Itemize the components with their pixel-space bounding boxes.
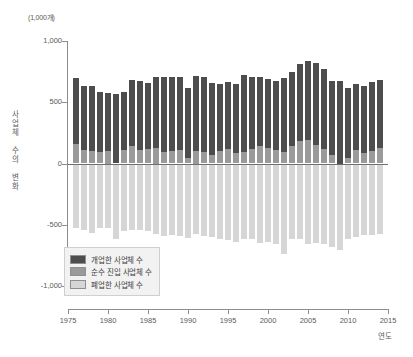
x-tick-label: 2010 xyxy=(340,316,357,325)
y-tick-label: 1,000 xyxy=(30,36,62,45)
x-tick-mark xyxy=(308,309,309,314)
y-tick-label-wrap: 0 xyxy=(22,159,62,160)
y-axis-title-char: 화 xyxy=(8,182,22,191)
bar-segment-net-entry xyxy=(273,150,279,163)
bar-segment-deaths xyxy=(193,164,199,234)
x-tick-mark xyxy=(108,309,109,314)
bar-segment-births xyxy=(89,86,95,150)
bar-segment-births xyxy=(121,92,127,150)
legend-label: 순수 진입 사업체 수 xyxy=(91,266,152,277)
bar-segment-deaths xyxy=(185,164,191,238)
bar-segment-births xyxy=(193,76,199,151)
y-axis-title-char xyxy=(8,164,22,173)
bar-segment-net-entry xyxy=(281,152,287,164)
bar-segment-births xyxy=(145,83,151,150)
bar-segment-deaths xyxy=(89,164,95,233)
y-tick-label: -1,000 xyxy=(30,281,62,290)
x-tick-label: 1990 xyxy=(180,316,197,325)
bar-segment-births xyxy=(177,77,183,150)
bar-segment-deaths xyxy=(369,164,375,236)
y-tick-label: 0 xyxy=(30,159,62,168)
bar-segment-births xyxy=(217,84,223,150)
bar-segment-net-entry xyxy=(377,148,383,164)
bar-segment-net-entry xyxy=(193,151,199,163)
x-tick-label: 1985 xyxy=(140,316,157,325)
bar-segment-net-entry xyxy=(169,151,175,164)
y-tick-label-wrap: -1,000 xyxy=(22,281,62,282)
bar-segment-deaths xyxy=(273,164,279,244)
bar-segment-births xyxy=(249,77,255,149)
bar-segment-net-entry xyxy=(97,152,103,164)
bar-segment-births xyxy=(321,69,327,149)
bar-segment-births xyxy=(329,81,335,155)
bar-segment-births xyxy=(361,86,367,153)
y-axis-title-char: 사 xyxy=(8,110,22,119)
bar-segment-deaths xyxy=(353,164,359,238)
bar-segment-births xyxy=(345,88,351,158)
bar-segment-births xyxy=(137,81,143,150)
y-axis-title-char: 업 xyxy=(8,119,22,128)
bar-segment-deaths xyxy=(321,164,327,244)
bar-segment-deaths xyxy=(337,164,343,250)
x-axis-title: 연도 xyxy=(378,330,392,341)
bar-segment-net-entry xyxy=(249,149,255,163)
chart-figure: (1,000개) 사업체 수의 변화 연도 1,0005000-500-1,00… xyxy=(0,0,413,357)
x-tick-mark xyxy=(268,309,269,314)
bar-segment-births xyxy=(281,78,287,152)
bar-segment-net-entry xyxy=(225,149,231,164)
legend-item: 순수 진입 사업체 수 xyxy=(70,266,152,277)
bar-segment-deaths xyxy=(105,164,111,229)
bar-segment-deaths xyxy=(137,164,143,231)
bar-segment-net-entry xyxy=(137,150,143,163)
legend-swatch-icon xyxy=(70,267,86,276)
bar-segment-births xyxy=(73,78,79,144)
bar-segment-deaths xyxy=(329,164,335,247)
y-axis-title-char: 체 xyxy=(8,128,22,137)
bar-segment-deaths xyxy=(177,164,183,237)
bar-segment-deaths xyxy=(209,164,215,238)
bar-segment-net-entry xyxy=(209,155,215,164)
chart-legend: 개업한 사업체 수순수 진입 사업체 수폐업한 사업체 수 xyxy=(64,247,160,296)
x-tick-mark xyxy=(348,309,349,314)
x-tick-label: 1975 xyxy=(60,316,77,325)
bar-segment-deaths xyxy=(345,164,351,239)
zero-baseline xyxy=(68,164,388,165)
bar-segment-births xyxy=(185,88,191,158)
bar-segment-deaths xyxy=(361,164,367,235)
y-tick-label-wrap: 500 xyxy=(22,97,62,98)
bar-segment-deaths xyxy=(201,164,207,237)
bar-segment-deaths xyxy=(265,164,271,242)
x-tick-label: 2005 xyxy=(300,316,317,325)
legend-swatch-icon xyxy=(70,280,86,289)
bar-segment-net-entry xyxy=(361,153,367,163)
bar-segment-births xyxy=(209,83,215,155)
bar-segment-deaths xyxy=(145,164,151,232)
bar-segment-net-entry xyxy=(329,155,335,164)
bar-segment-deaths xyxy=(289,164,295,240)
x-tick-mark xyxy=(228,309,229,314)
bar-segment-net-entry xyxy=(369,151,375,164)
y-axis-title-char xyxy=(8,137,22,146)
bar-segment-births xyxy=(81,86,87,150)
y-axis-title: 사업체 수의 변화 xyxy=(8,110,22,191)
bar-segment-net-entry xyxy=(153,148,159,163)
bar-segment-deaths xyxy=(73,164,79,229)
bar-segment-births xyxy=(113,94,119,163)
bar-segment-deaths xyxy=(377,164,383,234)
bar-segment-births xyxy=(257,77,263,146)
x-tick-mark xyxy=(68,309,69,314)
bar-segment-deaths xyxy=(281,164,287,254)
bar-segment-net-entry xyxy=(321,149,327,164)
bar-segment-births xyxy=(353,84,359,150)
bar-segment-deaths xyxy=(241,164,247,239)
bar-segment-deaths xyxy=(97,164,103,228)
legend-label: 폐업한 사업체 수 xyxy=(91,279,143,290)
legend-item: 폐업한 사업체 수 xyxy=(70,279,152,290)
x-tick-mark xyxy=(188,309,189,314)
bar-segment-births xyxy=(161,77,167,152)
bar-segment-births xyxy=(337,81,343,164)
bar-segment-net-entry xyxy=(257,146,263,163)
x-tick-label: 2000 xyxy=(260,316,277,325)
bar-segment-net-entry xyxy=(241,152,247,164)
x-tick-mark xyxy=(388,309,389,314)
